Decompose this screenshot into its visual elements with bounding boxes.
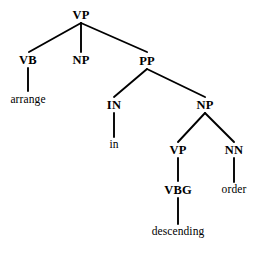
edge-np2-to-vp2 <box>178 113 205 142</box>
parse-tree-figure: VP VB NP PP IN NP VP NN VBG arrange in o… <box>0 0 265 253</box>
tree-edges-layer <box>0 0 265 253</box>
edge-pp-to-in <box>114 69 147 97</box>
edge-vp-to-vb <box>29 23 81 52</box>
edge-np2-to-nn <box>205 113 234 142</box>
edge-vp-to-pp <box>81 23 147 52</box>
edge-pp-to-np2 <box>147 69 205 97</box>
